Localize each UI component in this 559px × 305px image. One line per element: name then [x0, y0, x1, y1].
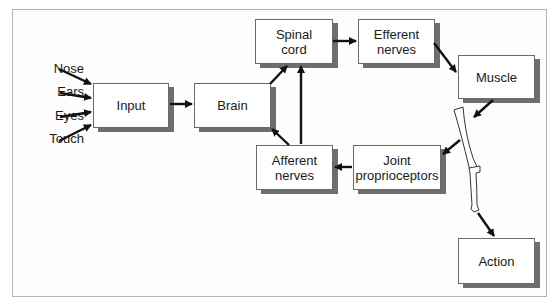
arrow-efferent-to-muscle [434, 43, 456, 72]
arrow-muscle-to-limb [474, 100, 493, 117]
limb-bone-icon [454, 107, 480, 212]
arrow-limb-to-action [478, 213, 494, 236]
arrow-touch-to-input [59, 125, 91, 141]
arrow-ears-to-input [60, 93, 91, 98]
arrow-brain-to-spinal-cord [270, 66, 287, 84]
arrow-limb-to-joint [443, 140, 460, 154]
arrow-afferent-to-brain [272, 129, 289, 145]
arrow-eyes-to-input [60, 112, 91, 117]
arrow-nose-to-input [59, 69, 91, 84]
arrows-layer [0, 0, 559, 305]
